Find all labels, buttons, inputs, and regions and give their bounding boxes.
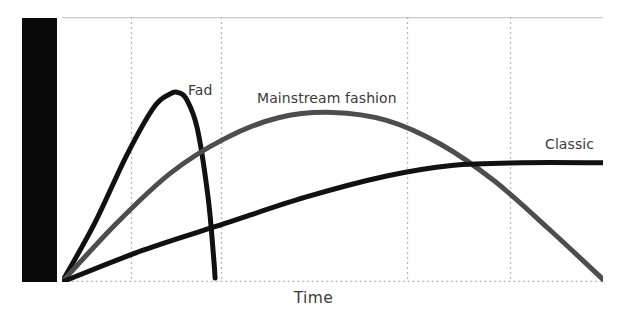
series-paths [62,92,603,282]
series-label-mainstream: Mainstream fashion [257,90,397,106]
x-axis-label: Time [0,289,627,307]
plot-svg [62,17,603,282]
series-curve-mainstream-fashion [62,112,603,282]
y-axis-label: Consumer Acceptance [22,0,57,53]
plot-area [62,17,603,282]
series-label-fad: Fad [188,82,213,98]
series-label-classic: Classic [545,136,594,152]
chart-container: Consumer Acceptance Fad Mainstream fashi… [0,0,627,315]
y-axis-band [22,18,57,282]
series-curve-classic [62,163,603,282]
